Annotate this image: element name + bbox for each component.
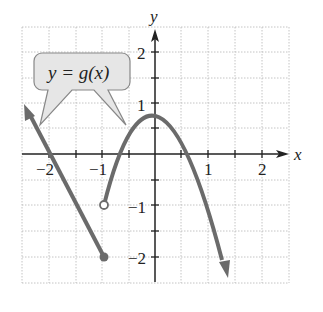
- x-axis-label: x: [293, 145, 302, 164]
- x-tick-label: 1: [204, 160, 213, 179]
- function-label: y = g(x): [46, 62, 109, 84]
- line-piece: [24, 104, 109, 262]
- y-tick-label: 1: [137, 96, 146, 115]
- x-tick-label: −2: [36, 160, 54, 179]
- y-tick-label: −1: [128, 198, 146, 217]
- y-axis-label: y: [148, 7, 158, 26]
- y-tick-label: −2: [128, 249, 146, 268]
- open-point: [100, 201, 108, 209]
- parabola-piece: [100, 116, 230, 278]
- x-tick-label: 2: [258, 160, 267, 179]
- graph: −2 −1 1 2 2 1 −1 −2 x y y = g(x): [0, 0, 323, 312]
- function-label-callout: y = g(x): [34, 53, 130, 125]
- x-tick-label: −1: [89, 160, 107, 179]
- y-tick-label: 2: [137, 44, 146, 63]
- arrow-down-icon: [219, 260, 230, 278]
- closed-point: [100, 253, 109, 262]
